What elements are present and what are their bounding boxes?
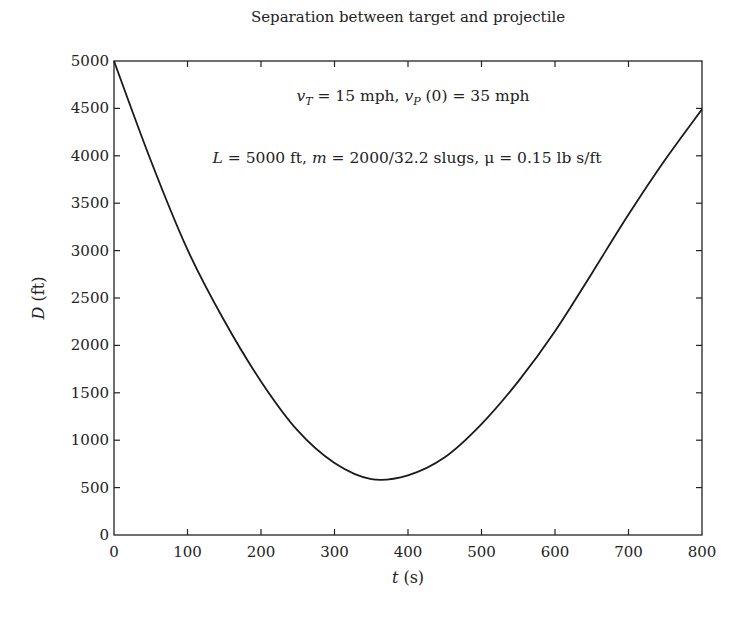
y-tick-label: 2000 bbox=[71, 336, 109, 354]
y-tick-label: 3000 bbox=[71, 242, 109, 260]
y-tick-label: 4500 bbox=[71, 99, 109, 117]
annotation-line-1: vT = 15 mph, vP (0) = 35 mph bbox=[296, 87, 529, 108]
x-tick-label: 300 bbox=[320, 543, 349, 561]
x-tick-label: 400 bbox=[394, 543, 423, 561]
y-axis-label: D (ft) bbox=[29, 277, 48, 321]
x-tick-label: 700 bbox=[614, 543, 643, 561]
x-tick-label: 0 bbox=[109, 543, 119, 561]
y-tick-label: 500 bbox=[80, 479, 109, 497]
chart: Separation between target and projectile… bbox=[0, 0, 752, 619]
chart-title: Separation between target and projectile bbox=[251, 8, 565, 26]
x-tick-label: 100 bbox=[173, 543, 202, 561]
y-tick-label: 3500 bbox=[71, 194, 109, 212]
x-axis-label: t (s) bbox=[392, 568, 424, 587]
y-axis-ticks: 0500100015002000250030003500400045005000 bbox=[71, 52, 702, 544]
x-axis-ticks: 0100200300400500600700800 bbox=[109, 61, 716, 561]
x-tick-label: 600 bbox=[541, 543, 570, 561]
y-tick-label: 1000 bbox=[71, 431, 109, 449]
y-tick-label: 4000 bbox=[71, 147, 109, 165]
x-tick-label: 200 bbox=[247, 543, 276, 561]
annotation-line-2: L = 5000 ft, m = 2000/32.2 slugs, μ = 0.… bbox=[212, 149, 603, 167]
plot-frame bbox=[114, 61, 702, 535]
series-line-D bbox=[114, 61, 702, 480]
y-tick-label: 0 bbox=[99, 526, 109, 544]
y-tick-label: 2500 bbox=[71, 289, 109, 307]
x-tick-label: 500 bbox=[467, 543, 496, 561]
y-tick-label: 1500 bbox=[71, 384, 109, 402]
x-tick-label: 800 bbox=[688, 543, 717, 561]
y-tick-label: 5000 bbox=[71, 52, 109, 70]
